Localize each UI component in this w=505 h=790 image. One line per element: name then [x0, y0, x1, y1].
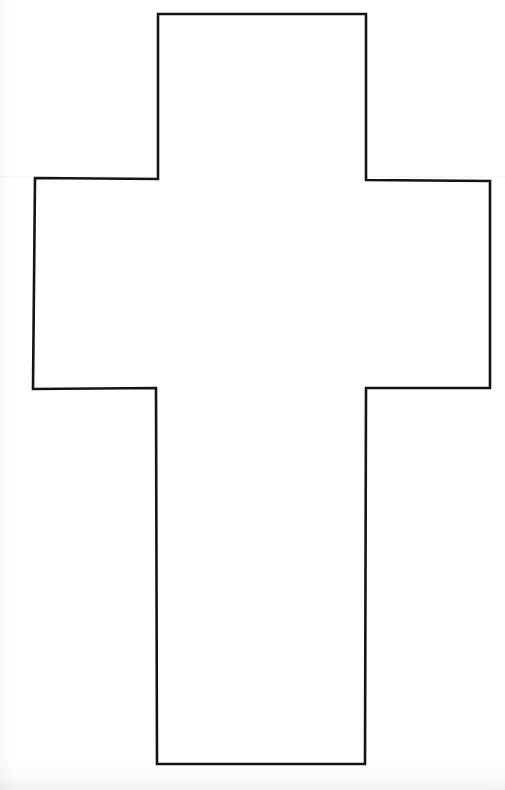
cross-outline-polygon — [33, 14, 490, 764]
cross-outline-drawing — [0, 0, 505, 790]
cross-template-page — [0, 0, 505, 790]
